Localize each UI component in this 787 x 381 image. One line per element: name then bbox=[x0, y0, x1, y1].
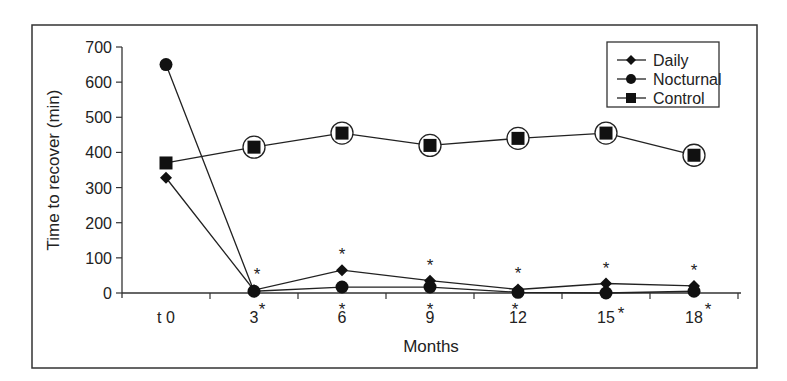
asterisk-icon: * bbox=[705, 300, 712, 319]
circle-marker bbox=[600, 287, 613, 300]
asterisk-icon: * bbox=[339, 300, 346, 319]
y-tick-label: 0 bbox=[103, 285, 112, 302]
circle-marker bbox=[336, 281, 349, 294]
square-marker bbox=[626, 93, 636, 103]
diamond-marker bbox=[336, 264, 348, 276]
legend-label: Daily bbox=[653, 52, 689, 69]
asterisk-icon: * bbox=[259, 300, 266, 319]
asterisk-icon: * bbox=[618, 304, 625, 323]
y-tick-label: 500 bbox=[85, 109, 112, 126]
y-tick-label: 400 bbox=[85, 144, 112, 161]
legend-label: Nocturnal bbox=[653, 71, 721, 88]
x-tick-label: t 0 bbox=[157, 309, 175, 326]
asterisk-icon: * bbox=[427, 256, 434, 275]
square-marker bbox=[512, 132, 525, 145]
x-axis-label: Months bbox=[403, 337, 459, 356]
legend-label: Control bbox=[653, 90, 705, 107]
square-marker bbox=[688, 149, 701, 162]
asterisk-icon: * bbox=[427, 300, 434, 319]
square-marker bbox=[424, 139, 437, 152]
circle-marker bbox=[688, 285, 701, 298]
line-chart: 0100200300400500600700t 0369121518 *****… bbox=[0, 0, 787, 381]
circle-marker bbox=[626, 74, 636, 84]
x-tick-label: 15 bbox=[597, 309, 615, 326]
asterisk-icon: * bbox=[691, 261, 698, 280]
circle-marker bbox=[424, 281, 437, 294]
circle-marker bbox=[248, 285, 261, 298]
asterisk-icon: * bbox=[339, 245, 346, 264]
x-tick-label: 18 bbox=[685, 309, 703, 326]
y-tick-label: 200 bbox=[85, 215, 112, 232]
y-axis-label: Time to recover (min) bbox=[44, 90, 63, 251]
square-marker bbox=[336, 127, 349, 140]
series-daily bbox=[160, 172, 700, 296]
asterisk-icon: * bbox=[603, 259, 610, 278]
square-marker bbox=[160, 156, 173, 169]
series-control bbox=[160, 122, 706, 169]
diamond-marker bbox=[160, 172, 172, 184]
asterisk-icon: * bbox=[515, 264, 522, 283]
asterisk-icon: * bbox=[512, 300, 519, 319]
square-marker bbox=[600, 127, 613, 140]
circle-marker bbox=[512, 286, 525, 299]
chart-container: 0100200300400500600700t 0369121518 *****… bbox=[0, 0, 787, 381]
x-tick-label: 3 bbox=[250, 309, 259, 326]
y-tick-label: 100 bbox=[85, 250, 112, 267]
y-tick-label: 700 bbox=[85, 39, 112, 56]
square-marker bbox=[248, 141, 261, 154]
legend: DailyNocturnalControl bbox=[607, 42, 721, 107]
circle-marker bbox=[160, 58, 173, 71]
y-tick-label: 600 bbox=[85, 74, 112, 91]
asterisk-icon: * bbox=[254, 265, 261, 284]
y-tick-label: 300 bbox=[85, 180, 112, 197]
